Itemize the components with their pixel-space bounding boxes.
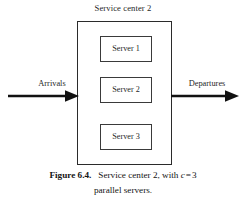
departures-arrow: [171, 88, 239, 104]
figure-6-4: Service center 2 Server 1 Server 2 Serve…: [0, 0, 246, 202]
caption-line-1: Figure 6.4.Service center 2, with c=3: [0, 168, 246, 183]
caption-value: 3: [192, 170, 197, 180]
arrivals-label: Arrivals: [26, 79, 78, 89]
service-center-title: Service center 2: [0, 3, 246, 14]
server-label-1: Server 1: [112, 44, 140, 54]
caption-operator: =: [185, 170, 192, 180]
caption-text: Service center 2, with: [98, 170, 178, 180]
figure-caption: Figure 6.4.Service center 2, with c=3 pa…: [0, 168, 246, 197]
server-label-2: Server 2: [112, 85, 140, 95]
server-label-3: Server 3: [112, 132, 140, 142]
server-box-2: Server 2: [100, 77, 152, 103]
departures-label: Departures: [174, 79, 240, 89]
server-box-1: Server 1: [100, 36, 152, 62]
caption-line-2: parallel servers.: [0, 183, 246, 198]
arrivals-arrow: [8, 88, 79, 104]
server-box-3: Server 3: [100, 124, 152, 150]
caption-number: Figure 6.4.: [49, 170, 91, 180]
